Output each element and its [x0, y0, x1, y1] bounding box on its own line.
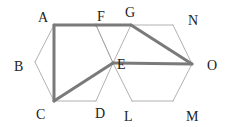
hexagon-path-diagram: AFGNBEOCDLM: [0, 0, 236, 127]
vertex-label-F: F: [97, 9, 105, 24]
vertex-label-L: L: [124, 109, 133, 124]
vertex-label-C: C: [36, 107, 45, 122]
edge-AB: [35, 25, 54, 62]
edge-BC: [35, 62, 54, 101]
vertex-label-N: N: [188, 13, 198, 28]
vertex-label-D: D: [95, 106, 105, 121]
vertex-label-M: M: [186, 109, 199, 124]
vertex-label-G: G: [125, 5, 135, 20]
vertex-label-E: E: [117, 57, 126, 72]
vertex-label-O: O: [207, 58, 217, 73]
edge-FE: [96, 25, 113, 63]
vertex-label-B: B: [14, 59, 23, 74]
edge-OM: [173, 64, 192, 101]
vertex-label-A: A: [38, 10, 49, 25]
